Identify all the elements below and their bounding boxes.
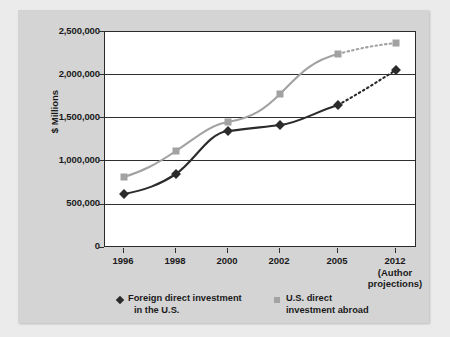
series-foreign-in-us-projection	[338, 70, 396, 105]
marker-us-abroad-2000	[225, 119, 232, 126]
series-svg	[105, 32, 415, 246]
y-tick-label-2000000: 2,000,000	[28, 69, 100, 79]
figure-container: $ Millions 2,500,000 2,000,000 1,500,000…	[0, 0, 450, 337]
y-tick-label-1500000: 1,500,000	[28, 112, 100, 122]
x-tick-label-2012: 2012	[370, 255, 420, 266]
legend-item-us-abroad-line2: investment abroad	[286, 305, 416, 317]
y-tick-label-500000: 500,000	[28, 198, 100, 208]
square-marker-icon	[274, 297, 280, 303]
marker-foreign-in-us-2002	[275, 120, 285, 130]
x-tick-label-1996: 1996	[98, 255, 148, 266]
legend-item-us-abroad-line1: U.S. direct	[286, 293, 416, 305]
y-tick-label-0: 0	[28, 241, 100, 251]
marker-us-abroad-1996	[121, 174, 128, 181]
x-axis-projection-note-line1: (Author	[366, 267, 424, 278]
chart-legend: Foreign direct investment in the U.S. U.…	[114, 293, 414, 323]
series-foreign-in-us-solid	[124, 105, 338, 194]
x-tick-label-1998: 1998	[150, 255, 200, 266]
x-tick-mark-2002	[279, 248, 280, 253]
x-tick-label-2002: 2002	[254, 255, 304, 266]
chart-area: $ Millions 2,500,000 2,000,000 1,500,000…	[18, 10, 429, 323]
marker-foreign-in-us-2000	[223, 126, 233, 136]
series-us-abroad-projection	[338, 43, 396, 54]
marker-us-abroad-2012	[393, 40, 400, 47]
marker-foreign-in-us-2005	[333, 100, 343, 110]
y-tick-mark-0	[99, 247, 104, 248]
y-axis-column: $ Millions	[30, 10, 100, 323]
x-tick-mark-2012	[395, 248, 396, 253]
marker-foreign-in-us-1996	[119, 189, 129, 199]
legend-item-us-abroad: U.S. direct investment abroad	[286, 293, 416, 316]
x-tick-mark-2000	[227, 248, 228, 253]
legend-item-foreign-in-us: Foreign direct investment in the U.S.	[128, 293, 278, 316]
marker-us-abroad-2005	[335, 51, 342, 58]
legend-item-foreign-in-us-line1: Foreign direct investment	[128, 293, 278, 305]
marker-foreign-in-us-2012	[391, 65, 401, 75]
legend-item-foreign-in-us-line2: in the U.S.	[134, 305, 278, 317]
diamond-marker-icon	[116, 295, 124, 303]
y-tick-label-2500000: 2,500,000	[28, 26, 100, 36]
x-tick-mark-1998	[175, 248, 176, 253]
y-tick-label-1000000: 1,000,000	[28, 155, 100, 165]
marker-us-abroad-1998	[173, 148, 180, 155]
x-tick-label-2000: 2000	[202, 255, 252, 266]
x-tick-mark-1996	[123, 248, 124, 253]
marker-us-abroad-2002	[277, 91, 284, 98]
x-axis-projection-note-line2: projections)	[362, 278, 428, 289]
x-tick-mark-2005	[337, 248, 338, 253]
series-us-abroad-solid	[124, 54, 338, 177]
chart-panel: $ Millions 2,500,000 2,000,000 1,500,000…	[18, 10, 429, 323]
x-tick-label-2005: 2005	[312, 255, 362, 266]
plot-frame	[104, 31, 416, 247]
